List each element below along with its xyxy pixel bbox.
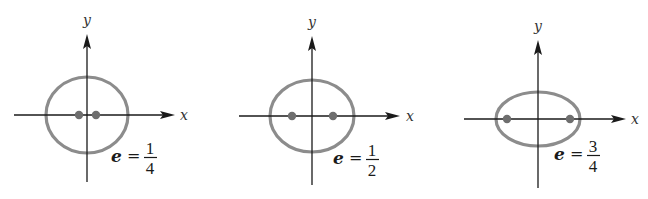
fraction-denominator: 4 xyxy=(589,157,598,176)
fraction-numerator: 3 xyxy=(589,137,598,156)
equals-sign: = xyxy=(570,144,583,163)
focus-point-2 xyxy=(329,112,337,120)
x-axis-label: x xyxy=(180,107,188,123)
eccentricity-symbol: e xyxy=(111,146,122,166)
ellipse-eccentricity-figure: xye=14xye=12xye=34 xyxy=(0,0,648,199)
fraction-denominator: 2 xyxy=(368,161,377,180)
diagram-panel-3: xye=34 xyxy=(464,18,639,188)
fraction-numerator: 1 xyxy=(146,139,155,158)
equals-sign: = xyxy=(127,146,140,165)
y-axis-label: y xyxy=(533,18,543,34)
focus-point-1 xyxy=(503,115,511,123)
x-axis-label: x xyxy=(631,111,639,127)
equals-sign: = xyxy=(349,148,362,167)
fraction-numerator: 1 xyxy=(368,141,377,160)
diagram-panel-2: xye=12 xyxy=(239,14,414,185)
eccentricity-symbol: e xyxy=(554,144,565,164)
eccentricity-label: e=14 xyxy=(111,139,157,178)
eccentricity-symbol: e xyxy=(333,148,344,168)
y-axis-label: y xyxy=(82,12,92,28)
y-axis-label: y xyxy=(307,14,317,30)
fraction-denominator: 4 xyxy=(146,159,155,178)
focus-point-1 xyxy=(288,112,296,120)
focus-point-1 xyxy=(75,111,83,119)
eccentricity-label: e=12 xyxy=(333,141,379,180)
diagram-panel-1: xye=14 xyxy=(14,12,188,182)
focus-point-2 xyxy=(566,115,574,123)
focus-point-2 xyxy=(92,111,100,119)
x-axis-label: x xyxy=(406,108,414,124)
